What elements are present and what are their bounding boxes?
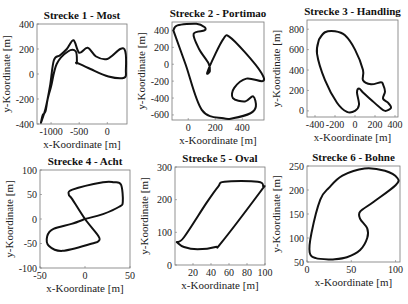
y-tick-label: 400 [289,65,304,76]
x-tick-label: 0 [83,270,88,281]
x-tick-label: 400 [388,119,403,130]
figure-canvas: Strecke 1 - Most-1000-50004002000-200-40… [0,0,408,304]
y-tick-label: 150 [289,209,304,220]
y-tick-label: 600 [289,44,304,55]
x-axis-label: x-Koordinate [m] [46,282,123,294]
y-tick-label: 800 [289,24,304,35]
y-tick-label: 300 [157,162,172,173]
x-tick-label: 20 [188,267,198,278]
y-tick-label: 100 [289,233,304,244]
y-axis-label: y-Koordinate [m] [270,175,282,252]
y-tick-label: 50 [27,189,37,200]
x-tick-label: 100 [258,267,273,278]
x-tick-label: 50 [346,264,356,275]
x-axis-label: x-Koordinate [m] [181,279,258,291]
y-tick-label: -100 [19,263,37,274]
subplot-2: Strecke 2 - Portimao02004004002000-200-4… [135,7,267,146]
y-tick-label: -200 [151,76,169,87]
y-tick-label: 250 [289,161,304,172]
subplot-title: Strecke 3 - Handling [304,5,401,17]
x-tick-label: -1000 [39,126,62,137]
x-tick-label: 40 [206,267,216,278]
x-axis-label: x-Koordinate [m] [43,138,120,150]
x-tick-label: 60 [224,267,234,278]
subplot-1: Strecke 1 - Most-1000-50004002000-200-40… [0,9,127,150]
y-tick-label: 200 [19,44,34,55]
subplot-3: Strecke 3 - Handling-400-200020040080060… [270,5,403,143]
x-tick-label: -400 [306,119,324,130]
axes-frame [37,24,127,124]
subplot-title: Strecke 5 - Oval [182,152,257,164]
subplot-4: Strecke 4 - Acht-50050100500-50-100x-Koo… [3,155,135,294]
y-tick-label: 200 [157,194,172,205]
y-axis-label: y-Koordinate [m] [3,180,15,257]
x-axis-label: x-Koordinate [m] [179,134,256,146]
x-tick-label: 200 [208,122,223,133]
y-tick-label: 0 [29,69,34,80]
y-tick-label: 0 [167,260,172,271]
y-tick-label: 400 [154,25,169,36]
y-tick-label: 100 [22,165,37,176]
y-axis-label: y-Koordinate [m] [270,30,282,107]
x-axis-label: x-Koordinate [m] [314,131,391,143]
y-axis-label: y-Koordinate [m] [135,32,147,109]
x-axis-label: x-Koordinate [m] [315,276,392,288]
y-axis-label: y-Koordinate [m] [138,177,150,254]
y-tick-label: 200 [289,185,304,196]
axes-frame [307,166,400,262]
y-tick-label: 100 [157,227,172,238]
y-tick-label: -400 [16,119,34,130]
x-tick-label: 0 [305,264,310,275]
y-tick-label: 400 [19,19,34,30]
x-tick-label: 50 [125,270,135,281]
y-tick-label: 0 [32,214,37,225]
y-axis-label: y-Koordinate [m] [0,35,12,112]
x-tick-label: 80 [242,267,252,278]
x-tick-label: -500 [70,126,88,137]
subplot-5: Strecke 5 - Oval204060801003002001000x-K… [138,152,273,291]
y-tick-label: 200 [154,42,169,53]
subplot-6: Strecke 6 - Bohne05010025020015010050x-K… [270,151,403,288]
axes-frame [172,22,264,120]
x-tick-label: -200 [326,119,344,130]
x-tick-label: 0 [105,126,110,137]
subplot-title: Strecke 1 - Most [44,9,121,21]
y-tick-label: -600 [151,109,169,120]
y-tick-label: 200 [289,85,304,96]
y-tick-label: 50 [294,257,304,268]
x-tick-label: 400 [235,122,250,133]
subplot-title: Strecke 6 - Bohne [312,151,395,163]
x-tick-label: 0 [353,119,358,130]
y-tick-label: 0 [299,105,304,116]
y-tick-label: -400 [151,93,169,104]
y-tick-label: -50 [24,238,37,249]
x-tick-label: 0 [186,122,191,133]
y-tick-label: -200 [16,94,34,105]
subplot-title: Strecke 4 - Acht [48,155,123,167]
x-tick-label: 100 [388,264,403,275]
y-tick-label: 0 [164,59,169,70]
x-tick-label: 200 [368,119,383,130]
subplot-title: Strecke 2 - Portimao [170,7,267,19]
